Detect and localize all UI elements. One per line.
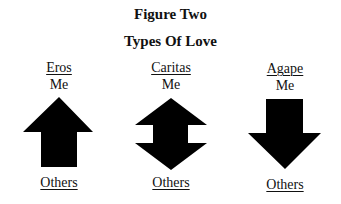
top-label: Me [9, 77, 109, 93]
type-name: Caritas [121, 60, 221, 76]
type-name: Agape [235, 61, 335, 77]
type-name: Eros [9, 60, 109, 76]
bottom-label: Others [9, 175, 109, 191]
top-label: Me [121, 77, 221, 93]
up-arrow-icon [23, 97, 93, 167]
down-arrow-icon [248, 99, 321, 169]
double-arrow-icon [135, 98, 207, 170]
bottom-label: Others [121, 175, 221, 191]
top-label: Me [235, 78, 335, 94]
arrows-diagram [0, 0, 341, 204]
bottom-label: Others [235, 177, 335, 193]
